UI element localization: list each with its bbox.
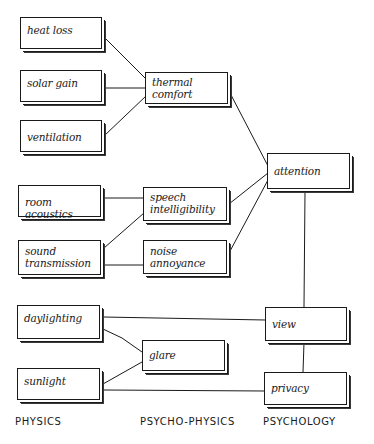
node-label: attention [274,165,321,177]
node-label-line2: transmission [25,257,100,269]
edge-sound-transmission-speech [104,213,144,248]
node-attention: attention [267,153,350,189]
edge-thermal-comfort-attention [230,93,268,166]
node-view: view [265,307,347,341]
column-label-physics: PHYSICS [15,416,62,427]
node-speech-intelligibility: speech intelligibility [143,187,227,221]
node-room-acoustics: room acoustics [18,185,101,217]
edge-daylighting-view [103,317,265,320]
node-daylighting: daylighting [17,305,100,339]
node-label: ventilation [27,131,82,143]
edge-attention-view [304,192,305,307]
node-label: solar gain [27,77,78,89]
node-label-line1: speech [150,191,226,203]
node-label: heat loss [27,24,72,36]
node-noise-annoyance: noise annoyance [143,240,227,274]
node-ventilation: ventilation [20,120,102,152]
node-glare: glare [142,340,225,371]
edge-ventilation-thermal-comfort [104,96,146,136]
node-label: privacy [271,382,309,394]
edge-noise-attention [229,180,268,253]
node-label-line1: noise [150,245,226,257]
edge-sunlight-glare [103,362,142,384]
edge-heat-loss-thermal-comfort [103,36,146,79]
node-label: sunlight [24,375,66,387]
node-label-line1: sound [25,245,100,257]
node-label-line2: comfort [152,88,227,100]
node-heat-loss: heat loss [20,17,102,49]
node-label: glare [149,349,176,361]
node-label: view [272,318,296,330]
node-sound-transmission: sound transmission [18,240,101,275]
edge-view-privacy [303,343,304,372]
edge-sunlight-privacy [103,390,264,391]
node-label: room acoustics [25,196,73,220]
node-thermal-comfort: thermal comfort [145,72,228,104]
node-label-line2: annoyance [150,257,226,269]
node-label-line1: thermal [152,76,227,88]
column-label-psychology: PSYCHOLOGY [263,416,336,427]
node-label-line2: intelligibility [150,203,226,215]
node-privacy: privacy [264,372,347,405]
node-solar-gain: solar gain [20,70,102,102]
edge-daylighting-glare [103,329,142,352]
node-label: daylighting [24,312,82,324]
edge-speech-attention [229,173,268,204]
column-label-psycho-physics: PSYCHO-PHYSICS [140,416,235,427]
node-sunlight: sunlight [17,368,100,400]
